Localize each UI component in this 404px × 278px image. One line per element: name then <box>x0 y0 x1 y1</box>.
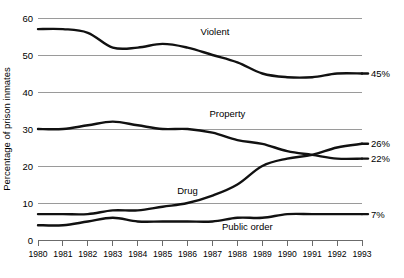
series-label-drug: Drug <box>177 185 198 196</box>
x-axis <box>38 240 362 246</box>
line-chart: Percentage of prison inmates 60 50 40 30… <box>0 0 404 278</box>
end-label-violent: 45% <box>371 68 391 79</box>
x-axis-tick-marks <box>38 240 362 246</box>
series-line-property <box>38 122 362 159</box>
y-axis-title: Percentage of prison inmates <box>1 67 12 191</box>
y-tick-label-20: 20 <box>22 161 33 172</box>
x-tick-label-1985: 1985 <box>153 249 172 259</box>
series-label-property: Property <box>209 108 245 119</box>
x-tick-label-1987: 1987 <box>203 249 222 259</box>
x-tick-label-1992: 1992 <box>328 249 347 259</box>
x-tick-label-1984: 1984 <box>128 249 147 259</box>
end-label-drug: 26% <box>371 138 391 149</box>
series-line-drug <box>38 144 362 215</box>
x-tick-label-1986: 1986 <box>178 249 197 259</box>
x-axis-tick-labels: 1980198119821983198419851986198719881989… <box>28 249 371 259</box>
y-tick-label-40: 40 <box>22 87 33 98</box>
y-tick-label-0: 0 <box>28 235 33 246</box>
x-tick-label-1990: 1990 <box>278 249 297 259</box>
series-label-public-order: Public order <box>222 221 273 232</box>
y-tick-label-60: 60 <box>22 13 33 24</box>
x-tick-label-1988: 1988 <box>228 249 247 259</box>
x-tick-label-1982: 1982 <box>78 249 97 259</box>
x-tick-label-1981: 1981 <box>53 249 72 259</box>
x-tick-label-1980: 1980 <box>28 249 47 259</box>
x-tick-label-1989: 1989 <box>253 249 272 259</box>
y-tick-label-10: 10 <box>22 198 33 209</box>
end-label-property: 22% <box>371 153 391 164</box>
end-label-public-order: 7% <box>371 209 385 220</box>
y-tick-label-50: 50 <box>22 50 33 61</box>
chart-container: Percentage of prison inmates 60 50 40 30… <box>0 0 404 278</box>
y-axis-ticks: 60 50 40 30 20 10 0 <box>22 13 33 246</box>
y-tick-label-30: 30 <box>22 124 33 135</box>
series-lines <box>38 29 368 226</box>
x-tick-label-1983: 1983 <box>103 249 122 259</box>
gridlines <box>38 18 362 203</box>
series-label-violent: Violent <box>201 26 230 37</box>
x-tick-label-1993: 1993 <box>352 249 371 259</box>
y-axis-title-text: Percentage of prison inmates <box>1 67 12 191</box>
series-line-public-order <box>38 214 362 226</box>
x-tick-label-1991: 1991 <box>303 249 322 259</box>
series-end-labels: 45%22%26%7% <box>371 68 391 220</box>
